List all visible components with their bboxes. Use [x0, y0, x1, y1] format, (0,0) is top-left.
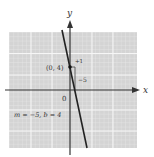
origin-label: 0 — [62, 95, 66, 103]
slope-intercept-graph: y x 0 (0, 4) +1 −5 m = −5, b = 4 — [0, 0, 154, 157]
rise-label: −5 — [78, 76, 87, 83]
equation-label: m = −5, b = 4 — [14, 111, 61, 119]
y-axis-label: y — [66, 8, 73, 18]
x-axis-label: x — [143, 85, 148, 95]
point-label: (0, 4) — [46, 64, 64, 72]
run-label: +1 — [75, 58, 83, 64]
y-intercept-point — [68, 65, 72, 69]
y-axis-arrow-icon — [67, 20, 73, 28]
